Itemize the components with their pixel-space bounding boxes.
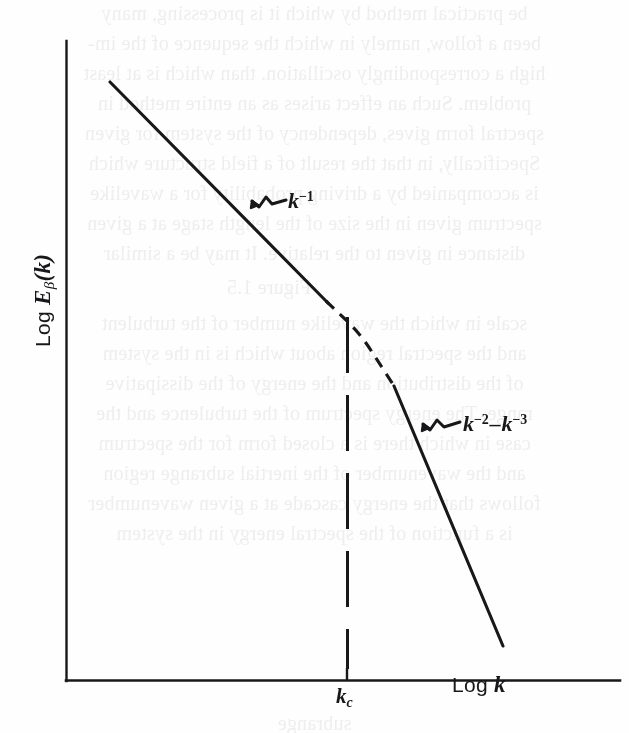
slope2-label: k−2–k−3 — [463, 411, 527, 437]
slope2-exponent-2: −3 — [513, 412, 528, 427]
slope2-exponent-1: −2 — [474, 412, 489, 427]
slope2-symbol-1: k — [463, 411, 474, 436]
y-axis-label-subscript: β — [41, 282, 57, 290]
kc-subscript: c — [347, 695, 353, 710]
kc-symbol: k — [336, 684, 347, 708]
slope1-leader-arrow — [251, 197, 286, 208]
slope2-separator: – — [489, 411, 502, 436]
figure-page: be practical method by which it is proce… — [0, 0, 629, 733]
slope2-symbol-2: k — [502, 411, 513, 436]
y-axis-label: Log Eβ(k) — [30, 200, 59, 400]
curve-segment-transition-dashed — [326, 301, 396, 389]
x-axis-label-prefix: Log — [452, 673, 494, 696]
slope1-symbol: k — [288, 188, 299, 213]
slope1-exponent: −1 — [299, 189, 314, 204]
x-axis-label-symbol: k — [494, 672, 506, 697]
slope1-label: k−1 — [288, 188, 314, 214]
y-axis-label-symbol: E — [30, 289, 55, 305]
y-axis-label-argument: (k) — [30, 254, 55, 282]
slope2-leader-arrow — [422, 420, 460, 431]
x-axis-label: Log k — [452, 672, 506, 698]
y-axis-label-prefix: Log — [31, 305, 54, 347]
kc-tick-label: kc — [336, 684, 353, 711]
plot-canvas — [0, 0, 629, 733]
